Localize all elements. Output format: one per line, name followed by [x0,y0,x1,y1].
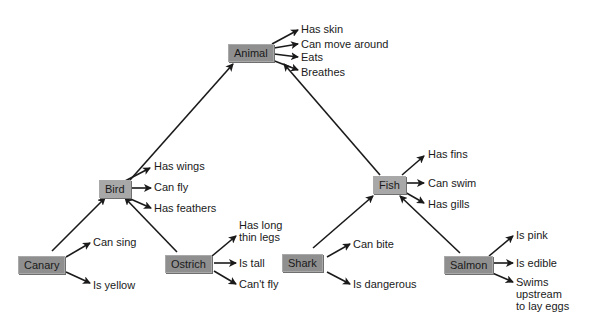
edge-fish-animal [284,64,380,175]
edge-shark-prop [327,272,350,284]
property-label: Has wings [154,160,205,172]
node-shark: Shark [282,254,323,272]
property-label: Has fins [428,148,468,160]
property-label: Swims upstream to lay eggs [516,276,569,312]
property-label: Is tall [239,257,265,269]
edge-canary-prop [66,243,90,257]
node-ostrich: Ostrich [165,255,212,273]
property-label: Is edible [516,257,557,269]
semantic-network-diagram [0,0,597,324]
node-salmon: Salmon [444,256,493,274]
property-label: Is dangerous [353,278,417,290]
node-canary: Canary [18,256,65,274]
property-label: Eats [301,51,323,63]
node-fish: Fish [373,176,406,194]
edge-animal-prop [272,60,298,70]
edge-fish-prop [402,156,424,175]
property-label: Can bite [353,238,394,250]
property-label: Has gills [428,198,470,210]
edge-animal-prop [274,54,298,57]
property-label: Can move around [301,38,388,50]
edge-salmon-prop [490,272,513,282]
property-label: Can fly [154,181,188,193]
property-label: Can swim [428,177,476,189]
edge-animal-prop [274,44,298,48]
property-label: Has skin [301,23,343,35]
node-bird: Bird [99,180,131,198]
property-label: Has long thin legs [239,219,282,243]
edge-ostrich-prop [214,271,236,284]
property-label: Has feathers [154,202,216,214]
node-animal: Animal [228,44,274,62]
edge-shark-prop [327,244,350,257]
edge-ostrich-prop [212,236,236,256]
property-label: Can't fly [239,278,278,290]
edge-canary-prop [66,272,90,283]
property-label: Is yellow [93,279,135,291]
edge-salmon-prop [489,236,513,256]
edge-animal-prop [272,30,298,44]
property-label: Is pink [516,229,548,241]
property-label: Can sing [93,236,136,248]
property-label: Breathes [301,66,345,78]
